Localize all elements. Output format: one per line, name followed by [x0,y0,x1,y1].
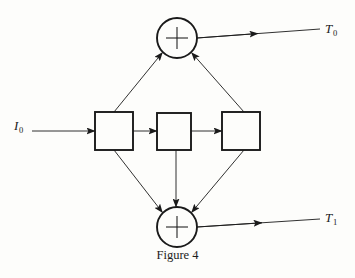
output-bottom-label-subscript: 1 [333,217,337,227]
edge-block-1-to-adder-bottom [114,150,163,213]
input-label-I0: I0 [14,118,23,134]
edge-block-3-to-adder-bottom [192,150,245,213]
block-3[interactable] [222,112,260,150]
input-label-base: I [14,118,19,133]
arrowhead-carrier-T0 [197,34,258,39]
output-top-label-base: T [325,21,332,36]
edge-block-1-to-adder-top [114,53,163,113]
figure-container: I0 T0 T1 Figure 4 [0,0,355,278]
block-1[interactable] [95,112,133,150]
output-bottom-label-base: T [325,210,332,225]
arrowhead-carrier-T1 [197,223,262,227]
block-2[interactable] [157,113,191,150]
input-label-subscript: 0 [19,125,23,135]
figure-caption: Figure 4 [0,248,355,263]
output-top-label-subscript: 0 [333,28,337,38]
output-label-T0: T0 [325,21,337,37]
edge-block-3-to-adder-top [192,53,245,113]
diagram-canvas [0,0,355,278]
output-label-T1: T1 [325,210,337,226]
